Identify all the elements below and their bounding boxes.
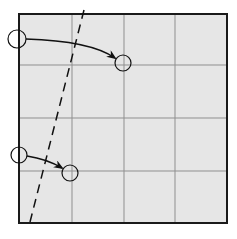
- origami-diagram: [0, 0, 237, 239]
